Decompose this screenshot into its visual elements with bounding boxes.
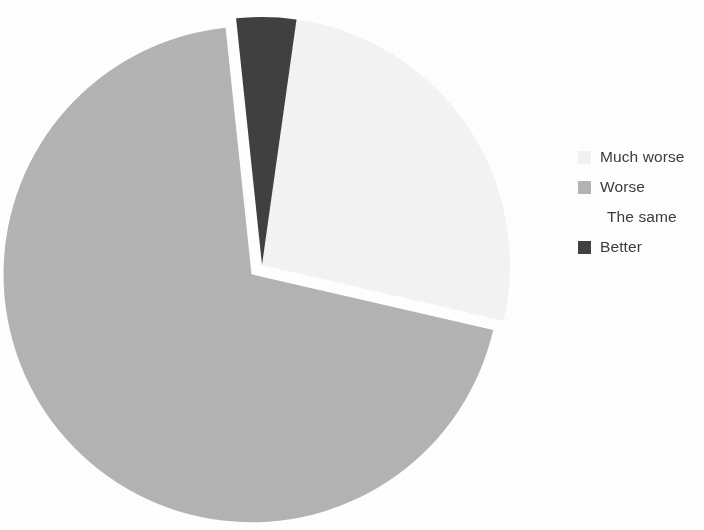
pie-chart-figure: Much worse Worse The same Better bbox=[0, 0, 704, 530]
legend-label-the-same: The same bbox=[607, 209, 677, 225]
legend-item-better: Better bbox=[578, 232, 704, 262]
legend-swatch-better bbox=[578, 241, 591, 254]
legend-label-worse: Worse bbox=[600, 179, 645, 195]
legend-label-better: Better bbox=[600, 239, 642, 255]
legend-swatch-worse bbox=[578, 181, 591, 194]
pie-chart-canvas bbox=[0, 0, 704, 530]
pie-slice-the-same bbox=[262, 19, 510, 320]
legend-swatch-the-same bbox=[578, 211, 591, 224]
chart-legend: Much worse Worse The same Better bbox=[578, 142, 704, 262]
legend-label-much-worse: Much worse bbox=[600, 149, 685, 165]
legend-item-much-worse: Much worse bbox=[578, 142, 704, 172]
legend-item-the-same: The same bbox=[578, 202, 704, 232]
legend-swatch-much-worse bbox=[578, 151, 591, 164]
legend-item-worse: Worse bbox=[578, 172, 704, 202]
